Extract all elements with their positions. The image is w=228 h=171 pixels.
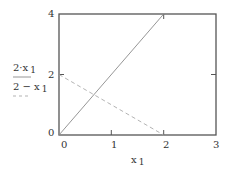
y-label-2: 2 [48,70,54,80]
plot-frame [59,14,216,135]
x-label-1: 1 [111,140,117,150]
x-axis-title: x1 [131,155,144,165]
series-2x1-line [59,14,164,135]
legend2-sub: 1 [42,84,48,94]
legend1-main: 2·x [13,62,28,73]
series-2-minus-x1-line [59,75,164,136]
legend2-main: 2 − x [13,81,40,92]
x-label-0: 0 [61,140,67,150]
x-axis-title-main: x [131,154,137,165]
legend1-sub: 1 [30,65,36,75]
x-label-2: 2 [163,140,169,150]
y-label-4: 4 [48,9,54,19]
legend-entry-2-minus-x1: 2 − x1 [13,82,47,92]
x-axis-title-sub: 1 [139,157,145,167]
x-label-3: 3 [213,140,219,150]
legend-entry-2x1: 2·x1 [13,63,36,73]
y-label-0: 0 [48,128,54,138]
